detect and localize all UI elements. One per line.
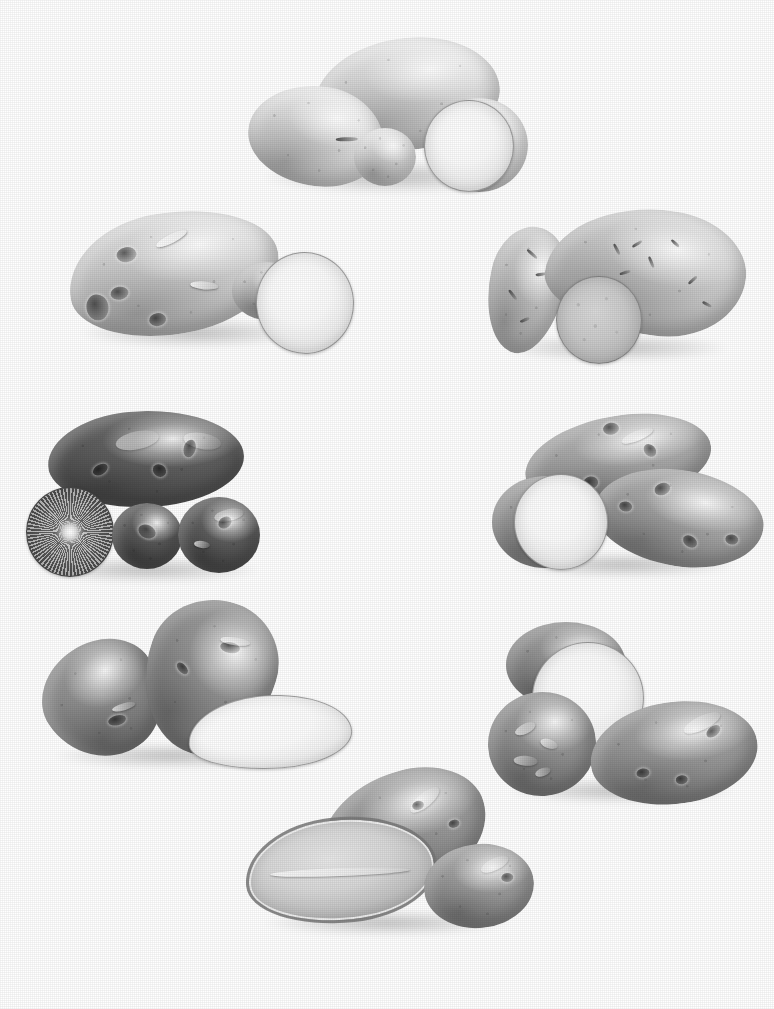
tuber-lengthwise-half (243, 811, 438, 930)
specimen-group-top (240, 30, 540, 200)
specimen-group-middle-left (22, 405, 287, 585)
cut-face-purple-radial (26, 487, 114, 577)
cut-face-russet (514, 474, 608, 570)
photographic-plate (0, 0, 774, 1009)
tuber-body (584, 691, 765, 815)
specimen-group-upper-left (62, 200, 362, 365)
cut-face-pale-right (424, 100, 514, 192)
specimen-group-lower-left (38, 595, 358, 775)
tuber-body (354, 128, 416, 186)
tuber-smooth-oval-right (584, 691, 765, 815)
specimen-group-bottom (244, 768, 544, 938)
specimen-group-middle-right (488, 412, 768, 582)
tuber-body (178, 497, 260, 573)
tuber-round-front-right (420, 838, 538, 933)
tuber-dark-round-right (178, 497, 260, 573)
cut-face-sweet-potato (556, 276, 642, 364)
tuber-pale-small-front (354, 128, 416, 186)
tuber-body (420, 838, 538, 933)
specimen-group-upper-right (480, 198, 765, 373)
tuber-dark-round-middle (112, 503, 182, 569)
